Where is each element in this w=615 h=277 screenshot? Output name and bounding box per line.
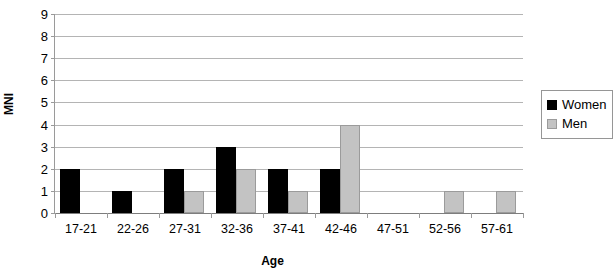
x-tick-mark: [419, 213, 420, 218]
y-tick-label: 6: [41, 74, 48, 87]
bar-women-42-46[interactable]: [320, 169, 340, 213]
y-tick-label: 5: [41, 96, 48, 109]
bar-women-32-36[interactable]: [216, 147, 236, 213]
legend-label: Men: [562, 117, 587, 130]
bar-women-27-31[interactable]: [164, 169, 184, 213]
x-tick-mark: [159, 213, 160, 218]
x-axis-title: Age: [0, 254, 545, 268]
y-tick-label: 3: [41, 140, 48, 153]
y-tick-label: 7: [41, 52, 48, 65]
y-tick-label: 1: [41, 184, 48, 197]
bar-group: [419, 14, 471, 213]
bar-group: [315, 14, 367, 213]
legend-label: Women: [562, 98, 607, 111]
bar-men-42-46[interactable]: [340, 125, 360, 213]
bar-group: [367, 14, 419, 213]
chart-legend: WomenMen: [541, 90, 613, 139]
legend-item-women[interactable]: Women: [547, 95, 608, 114]
x-tick-mark: [367, 213, 368, 218]
bar-group: [263, 14, 315, 213]
x-tick-mark: [471, 213, 472, 218]
bar-group: [55, 14, 107, 213]
legend-item-men[interactable]: Men: [547, 114, 608, 133]
plot-area: 012345678917-2122-2627-3132-3637-4142-46…: [54, 14, 523, 214]
legend-swatch-icon: [547, 100, 557, 110]
y-tick-label: 2: [41, 162, 48, 175]
y-tick-label: 0: [41, 207, 48, 220]
y-tick-label: 4: [41, 118, 48, 131]
y-axis-title: MNI: [2, 74, 16, 134]
bar-men-37-41[interactable]: [288, 191, 308, 213]
x-tick-mark: [211, 213, 212, 218]
bar-group: [159, 14, 211, 213]
bar-women-22-26[interactable]: [112, 191, 132, 213]
bar-men-52-56[interactable]: [444, 191, 464, 213]
bar-men-32-36[interactable]: [236, 169, 256, 213]
bar-men-27-31[interactable]: [184, 191, 204, 213]
bar-women-37-41[interactable]: [268, 169, 288, 213]
bar-women-17-21[interactable]: [60, 169, 80, 213]
bar-group: [471, 14, 523, 213]
bar-group: [107, 14, 159, 213]
y-tick-label: 8: [41, 30, 48, 43]
bar-group: [211, 14, 263, 213]
x-tick-label-57-61: 57-61: [462, 222, 532, 236]
x-tick-mark: [523, 213, 524, 218]
x-tick-mark: [107, 213, 108, 218]
y-tick-label: 9: [41, 8, 48, 21]
legend-swatch-icon: [547, 119, 557, 129]
x-tick-mark: [315, 213, 316, 218]
bar-men-57-61[interactable]: [496, 191, 516, 213]
x-tick-mark: [263, 213, 264, 218]
x-tick-mark: [55, 213, 56, 218]
bar-chart: MNI 012345678917-2122-2627-3132-3637-414…: [0, 0, 615, 277]
